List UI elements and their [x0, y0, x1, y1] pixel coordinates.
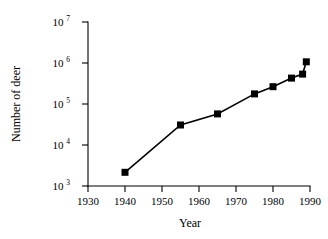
x-axis-title: Year	[179, 216, 201, 230]
y-tick-label-1e6-mantissa: 10	[53, 57, 65, 69]
y-tick-label-1e4-mantissa: 10	[53, 139, 65, 151]
y-tick-label-1e5-mantissa: 10	[53, 98, 65, 110]
x-tick-label-1930: 1930	[77, 195, 100, 207]
data-point-1975[interactable]	[251, 90, 258, 97]
y-tick-label-1e5-exponent: 5	[66, 96, 70, 105]
data-point-1989[interactable]	[303, 58, 310, 65]
y-tick-label-1e4-exponent: 4	[66, 137, 70, 146]
chart-figure: 10 7 10 6 10 5 10 4 10 3 1930 1940 1950	[0, 0, 328, 239]
y-tick-label-1e3-mantissa: 10	[53, 180, 65, 192]
x-tick-label-1990: 1990	[299, 195, 322, 207]
data-point-1940[interactable]	[122, 169, 129, 176]
data-point-1985[interactable]	[288, 75, 295, 82]
x-tick-label-1980: 1980	[262, 195, 285, 207]
y-tick-label-1e6-exponent: 6	[66, 55, 70, 64]
y-tick-label-1e3-exponent: 3	[66, 178, 70, 187]
x-tick-label-1960: 1960	[188, 195, 211, 207]
data-point-1980[interactable]	[270, 83, 277, 90]
y-tick-label-1e7-mantissa: 10	[53, 16, 65, 28]
x-tick-label-1970: 1970	[225, 195, 248, 207]
x-tick-label-1940: 1940	[114, 195, 137, 207]
data-point-1965[interactable]	[214, 110, 221, 117]
y-axis-title: Number of deer	[9, 66, 23, 142]
y-tick-label-1e7-exponent: 7	[66, 14, 70, 23]
data-point-1988[interactable]	[299, 71, 306, 78]
deer-population-line-chart: 10 7 10 6 10 5 10 4 10 3 1930 1940 1950	[0, 0, 328, 239]
data-point-1955[interactable]	[177, 122, 184, 129]
x-tick-label-1950: 1950	[151, 195, 174, 207]
